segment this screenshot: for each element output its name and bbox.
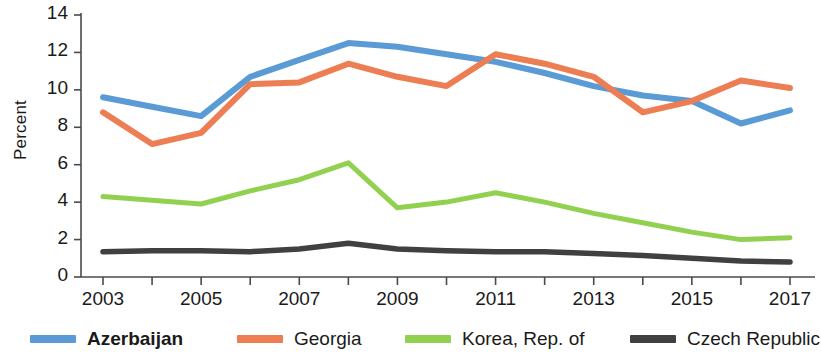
legend-swatch-icon	[405, 335, 451, 343]
legend-swatch-icon	[630, 335, 676, 343]
legend-item-azerbaijan[interactable]: Azerbaijan	[30, 328, 183, 350]
series-lines	[103, 43, 790, 262]
legend-item-korea-rep-of[interactable]: Korea, Rep. of	[405, 328, 585, 350]
legend-label: Korea, Rep. of	[462, 328, 585, 350]
legend-label: Czech Republic	[687, 328, 820, 350]
plot-area	[0, 0, 821, 320]
chart-legend: AzerbaijanGeorgiaKorea, Rep. ofCzech Rep…	[0, 322, 821, 356]
series-line-korea-rep-of	[103, 163, 790, 240]
line-chart: Percent 02468101214 20032005200720092011…	[0, 0, 821, 356]
legend-swatch-icon	[30, 335, 76, 343]
series-line-georgia	[103, 54, 790, 144]
legend-swatch-icon	[237, 335, 283, 343]
legend-item-czech-republic[interactable]: Czech Republic	[630, 328, 820, 350]
legend-item-georgia[interactable]: Georgia	[237, 328, 362, 350]
legend-label: Azerbaijan	[87, 328, 183, 350]
legend-label: Georgia	[294, 328, 362, 350]
series-line-czech-republic	[103, 243, 790, 262]
